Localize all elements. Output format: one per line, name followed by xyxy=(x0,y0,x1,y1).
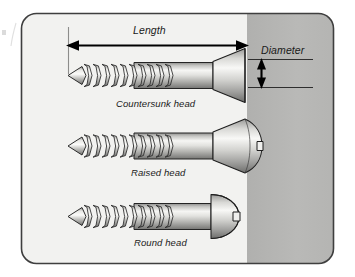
scan-artifact xyxy=(2,23,16,46)
screw-label-countersunk: Countersunk head xyxy=(116,98,195,109)
diagram-canvas xyxy=(0,0,355,277)
length-label: Length xyxy=(133,24,166,36)
screw-diagram-figure: Length Diameter Countersunk head Raised … xyxy=(0,0,355,277)
screw-label-raised: Raised head xyxy=(131,167,185,178)
diameter-label: Diameter xyxy=(261,44,304,56)
slot-raised xyxy=(257,142,263,151)
slot-round xyxy=(233,212,240,221)
screw-label-round: Round head xyxy=(134,237,187,248)
